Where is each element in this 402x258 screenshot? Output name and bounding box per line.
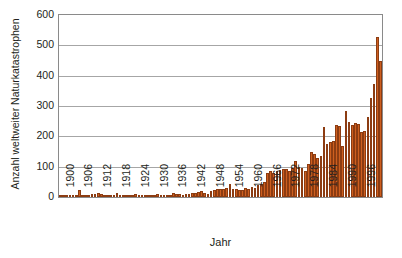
- y-tick-label: 200: [22, 129, 54, 141]
- x-tick-label: 1948: [214, 164, 226, 198]
- y-tick-label: 100: [22, 160, 54, 172]
- x-tick-label: 1942: [195, 164, 207, 198]
- natural-catastrophes-bar-chart: Anzahl weltweiter Naturkatastrophen 0100…: [0, 0, 402, 258]
- x-tick-label: 1966: [271, 164, 283, 198]
- x-axis-tick-labels: 1900190619121918192419301936194219481954…: [58, 198, 383, 238]
- x-tick-label: 1912: [101, 164, 113, 198]
- x-tick-label: 1936: [176, 164, 188, 198]
- y-tick-label: 0: [22, 190, 54, 202]
- bar: [379, 61, 382, 197]
- x-tick-label: 1924: [139, 164, 151, 198]
- x-tick-label: 1918: [120, 164, 132, 198]
- x-tick-label: 1930: [158, 164, 170, 198]
- x-axis-title: Jahr: [58, 236, 383, 248]
- x-tick-label: 1978: [308, 164, 320, 198]
- x-tick-label: 1984: [327, 164, 339, 198]
- y-tick-label: 600: [22, 8, 54, 20]
- y-axis-title: Anzahl weltweiter Naturkatastrophen: [9, 4, 21, 204]
- x-tick-label: 1960: [252, 164, 264, 198]
- y-tick-label: 500: [22, 38, 54, 50]
- y-axis-tick-labels: 0100200300400500600: [22, 9, 54, 201]
- y-tick-label: 300: [22, 99, 54, 111]
- y-tick-label: 400: [22, 69, 54, 81]
- x-tick-label: 1990: [346, 164, 358, 198]
- x-tick-label: 1972: [289, 164, 301, 198]
- x-tick-label: 1954: [233, 164, 245, 198]
- x-tick-label: 1900: [64, 164, 76, 198]
- x-tick-label: 1906: [82, 164, 94, 198]
- x-tick-label: 1996: [365, 164, 377, 198]
